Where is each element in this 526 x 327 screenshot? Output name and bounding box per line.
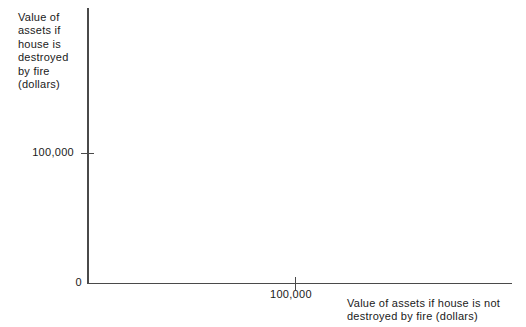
chart-figure: 100,000 0 100,000 Value of assets if hou…: [0, 0, 526, 327]
y-axis-tick-label-100000: 100,000: [32, 146, 74, 159]
y-axis-tick-100000: [81, 153, 94, 154]
origin-label: 0: [76, 276, 82, 289]
x-axis-tick-label-100000: 100,000: [270, 288, 312, 301]
x-axis-line: [87, 283, 512, 285]
y-axis-title: Value of assets if house is destroyed by…: [18, 11, 80, 91]
x-axis-title: Value of assets if house is not destroye…: [347, 297, 522, 324]
y-axis-line: [87, 8, 89, 284]
